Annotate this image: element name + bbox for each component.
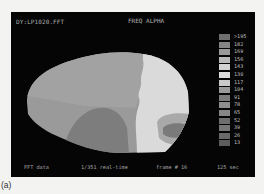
- figure-caption: (a): [1, 180, 11, 190]
- legend-label: 143: [234, 63, 243, 70]
- legend-label: 117: [234, 79, 243, 86]
- legend-label: 26: [234, 132, 240, 139]
- legend-swatch: [219, 34, 230, 40]
- legend-swatch: [219, 133, 230, 139]
- legend-swatch: [219, 125, 230, 131]
- legend-label: 130: [234, 71, 243, 78]
- legend-label: 78: [234, 101, 240, 108]
- legend-item: 143: [219, 63, 253, 71]
- legend-swatch: [219, 42, 230, 48]
- legend-label: 91: [234, 94, 240, 101]
- legend-label: 52: [234, 117, 240, 124]
- legend-swatch: [219, 140, 230, 146]
- legend-label: 182: [234, 41, 243, 48]
- legend-swatch: [219, 95, 230, 101]
- legend-swatch: [219, 110, 230, 116]
- color-scale-legend: >195 182 169 156 143 130 117 104 91 78 6…: [219, 33, 253, 147]
- legend-swatch: [219, 72, 230, 78]
- legend-item: 130: [219, 71, 253, 79]
- legend-label: 156: [234, 56, 243, 63]
- legend-item: 78: [219, 101, 253, 109]
- legend-swatch: [219, 49, 230, 55]
- legend-item: 65: [219, 109, 253, 117]
- legend-item: 52: [219, 117, 253, 125]
- frame-number-label: frame # 16: [156, 164, 187, 170]
- brain-topographic-map: [25, 48, 190, 154]
- legend-label: >195: [234, 33, 247, 40]
- legend-label: 169: [234, 48, 243, 55]
- playback-progress-label: 1/351 real-time: [81, 164, 128, 170]
- figure-page: DY:LP1020.FFT FREQ ALPHA >195 182 169 15…: [0, 0, 264, 194]
- legend-item: 169: [219, 48, 253, 56]
- legend-label: 13: [234, 139, 240, 146]
- data-type-label: FFT data: [24, 164, 49, 170]
- legend-swatch: [219, 102, 230, 108]
- elapsed-time-label: 125 sec: [217, 164, 239, 170]
- legend-item: 182: [219, 41, 253, 49]
- legend-item: 91: [219, 94, 253, 102]
- legend-label: 104: [234, 86, 243, 93]
- frequency-band-label: FREQ ALPHA: [128, 17, 164, 24]
- legend-item: 104: [219, 86, 253, 94]
- right-dark-patch: [163, 123, 187, 137]
- legend-item: 117: [219, 79, 253, 87]
- file-name-label: DY:LP1020.FFT: [16, 18, 64, 25]
- legend-item: >195: [219, 33, 253, 41]
- legend-swatch: [219, 57, 230, 63]
- legend-swatch: [219, 64, 230, 70]
- legend-label: 39: [234, 124, 240, 131]
- legend-swatch: [219, 87, 230, 93]
- legend-item: 26: [219, 132, 253, 140]
- legend-item: 13: [219, 139, 253, 147]
- legend-swatch: [219, 80, 230, 86]
- legend-item: 156: [219, 56, 253, 64]
- legend-item: 39: [219, 124, 253, 132]
- legend-label: 65: [234, 109, 240, 116]
- legend-swatch: [219, 118, 230, 124]
- crt-display: DY:LP1020.FFT FREQ ALPHA >195 182 169 15…: [11, 12, 255, 177]
